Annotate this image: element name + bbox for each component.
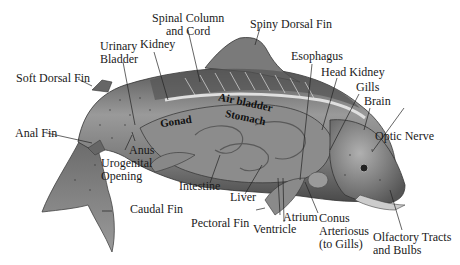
label-head-kidney: Head Kidney — [321, 66, 385, 79]
label-urinary-bladder: Urinary Bladder — [100, 40, 138, 66]
label-intestine: Intestine — [179, 180, 220, 193]
label-urogenital-opening: Urogenital Opening — [101, 157, 152, 183]
fish-anatomy-diagram: Spinal Column and Cord Spiny Dorsal Fin … — [0, 0, 460, 265]
label-conus-line3: (to Gills) — [319, 238, 369, 251]
label-conus-arteriosus: Conus Arteriosus (to Gills) — [319, 212, 369, 251]
label-ventricle: Ventricle — [253, 223, 296, 236]
label-spiny-dorsal-fin: Spiny Dorsal Fin — [250, 18, 332, 31]
label-esophagus: Esophagus — [291, 50, 343, 63]
label-pectoral-fin: Pectoral Fin — [191, 217, 249, 230]
label-optic-nerve: Optic Nerve — [375, 130, 434, 143]
label-urinary-bladder-line2: Bladder — [100, 53, 138, 66]
label-spinal-column: Spinal Column and Cord — [152, 12, 224, 38]
label-olfactory-line2: and Bulbs — [373, 244, 451, 257]
label-olfactory: Olfactory Tracts and Bulbs — [373, 231, 451, 257]
label-caudal-fin: Caudal Fin — [130, 203, 183, 216]
label-brain: Brain — [364, 95, 391, 108]
label-gills: Gills — [356, 81, 379, 94]
label-kidney: Kidney — [140, 38, 175, 51]
eye — [360, 164, 368, 172]
label-soft-dorsal-fin: Soft Dorsal Fin — [16, 72, 90, 85]
label-anal-fin: Anal Fin — [15, 127, 57, 140]
label-urogenital-line2: Opening — [101, 170, 152, 183]
label-liver: Liver — [230, 191, 256, 204]
soft-dorsal-fin-shape — [92, 80, 112, 92]
